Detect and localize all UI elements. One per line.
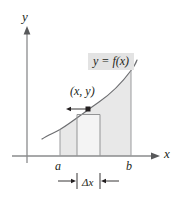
y-axis-arrowhead <box>24 26 31 35</box>
delta-x-label: Δx <box>82 177 93 188</box>
delta-left-arrowhead <box>71 179 76 183</box>
y-axis-label: y <box>22 10 28 23</box>
figure-canvas <box>0 0 183 199</box>
area-under-curve-figure: y x a b (x, y) y = f(x) Δx <box>0 0 183 199</box>
x-axis-label: x <box>164 147 170 160</box>
upper-limit-label: b <box>126 160 132 172</box>
function-equation-label: y = f(x) <box>88 53 134 70</box>
delta-right-arrowhead <box>101 179 106 183</box>
point-coordinate-label: (x, y) <box>70 85 95 97</box>
point-marker <box>86 107 91 112</box>
x-axis-arrowhead <box>151 152 160 159</box>
lower-limit-label: a <box>55 160 61 172</box>
representative-rectangle <box>77 115 100 157</box>
point-leader-arrowhead <box>66 107 71 111</box>
